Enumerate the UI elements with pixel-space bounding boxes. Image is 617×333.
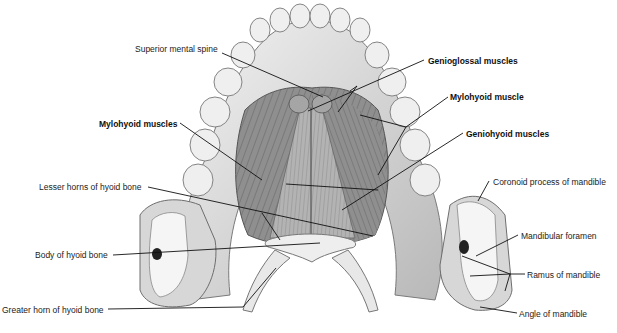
anatomy-figure: Superior mental spine Genioglossal muscl… (0, 0, 617, 333)
label-greater-horn-hyoid: Greater horn of hyoid bone (2, 305, 104, 315)
hyoid-bone (243, 234, 378, 312)
muscle-floor (236, 87, 389, 245)
label-mandibular-foramen: Mandibular foramen (521, 231, 597, 241)
label-lesser-horns-hyoid: Lesser horns of hyoid bone (39, 182, 142, 192)
label-ramus-mandible: Ramus of mandible (527, 270, 600, 280)
mandible-illustration (0, 0, 617, 333)
label-body-hyoid: Body of hyoid bone (35, 250, 108, 260)
label-genioglossal-muscles: Genioglossal muscles (428, 56, 518, 66)
label-geniohyoid-muscles: Geniohyoid muscles (466, 129, 549, 139)
label-angle-mandible: Angle of mandible (519, 309, 587, 319)
label-superior-mental-spine: Superior mental spine (135, 44, 218, 54)
label-coronoid-process: Coronoid process of mandible (493, 177, 606, 187)
label-mylohyoid-muscles: Mylohyoid muscles (99, 119, 177, 129)
label-mylohyoid-muscle: Mylohyoid muscle (450, 92, 524, 102)
